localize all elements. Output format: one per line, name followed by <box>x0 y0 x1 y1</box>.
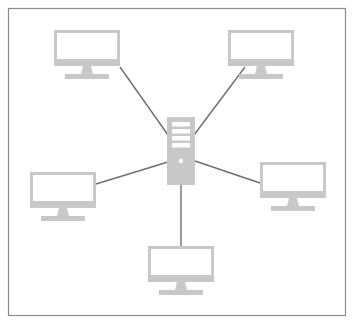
drive-bay <box>172 122 190 127</box>
power-button-icon <box>179 159 183 163</box>
server-tower-icon <box>167 117 195 185</box>
drive-bay <box>172 143 190 148</box>
drive-bay <box>172 136 190 141</box>
network-diagram <box>0 0 354 322</box>
drive-bay <box>172 129 190 134</box>
server <box>167 117 195 185</box>
